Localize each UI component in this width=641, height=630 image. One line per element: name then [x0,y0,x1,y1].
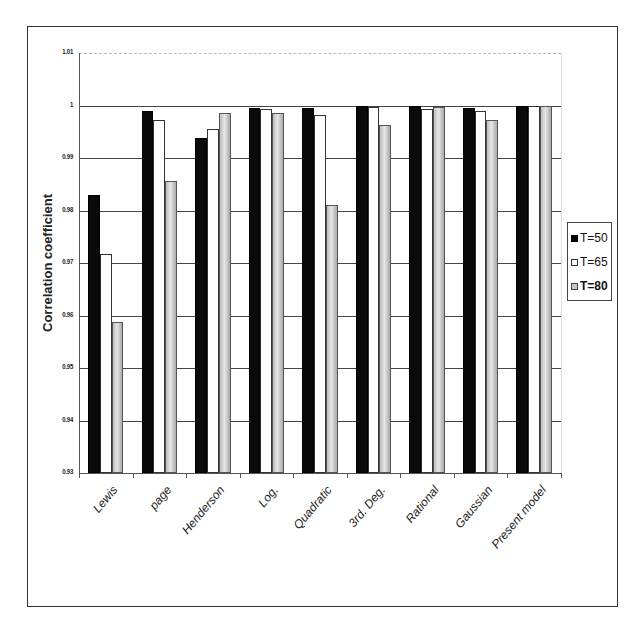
bar-t80-3rd-deg- [379,125,391,473]
legend: T=50T=65T=80 [567,222,612,301]
bar-t65-present-model [528,106,540,474]
legend-item: T=65 [571,255,608,269]
bar-t65-quadratic [314,115,326,473]
bar-t80-page [165,181,177,473]
legend-label: T=65 [580,255,608,269]
plot-right-edge [561,53,562,473]
x-tick [400,473,401,478]
y-tick-label: 0.97 [48,257,74,266]
legend-label: T=80 [580,279,608,293]
bar-t80-present-model [540,106,552,473]
bar-t50-quadratic [302,108,314,473]
x-tick [79,473,80,478]
x-tick [561,473,562,478]
x-tick [454,473,455,478]
bar-t50-present-model [516,106,528,474]
bar-t80-log- [272,113,284,473]
bar-t50-henderson [195,138,207,473]
legend-item: T=80 [571,279,608,293]
y-tick-label: 1.01 [48,47,74,56]
y-tick-label: 1 [48,100,74,109]
bar-t80-quadratic [326,205,338,473]
x-tick [293,473,294,478]
bar-t50-page [142,111,154,473]
bar-t65-gaussian [475,111,487,473]
x-tick [240,473,241,478]
x-tick [507,473,508,478]
legend-swatch-icon [571,259,578,266]
bar-t65-log- [260,109,272,473]
bar-t50-rational [409,106,421,473]
y-tick-label: 0.94 [48,415,74,424]
bar-t65-lewis [100,254,112,473]
bar-t65-rational [421,109,433,473]
bar-t50-3rd-deg- [356,106,368,474]
x-tick [133,473,134,478]
bar-t80-henderson [219,113,231,473]
bar-t65-page [153,120,165,473]
gridline [79,106,561,107]
y-tick-label: 0.98 [48,205,74,214]
bar-t50-log- [249,108,261,473]
bar-t80-gaussian [486,120,498,473]
y-tick-label: 0.95 [48,362,74,371]
y-tick-label: 0.96 [48,310,74,319]
x-tick [186,473,187,478]
y-tick-label: 0.99 [48,152,74,161]
bar-t50-gaussian [463,108,475,473]
x-tick [347,473,348,478]
bar-t65-henderson [207,129,219,473]
y-axis [79,53,80,473]
bar-t50-lewis [88,195,100,473]
legend-item: T=50 [571,231,608,245]
legend-swatch-icon [571,235,578,242]
gridline [79,53,561,54]
y-tick-label: 0.93 [48,467,74,476]
legend-label: T=50 [580,231,608,245]
legend-swatch-icon [571,283,578,290]
bar-t80-lewis [112,322,124,473]
x-axis [79,473,561,474]
bar-t65-3rd-deg- [368,107,380,473]
bar-t80-rational [433,107,445,473]
